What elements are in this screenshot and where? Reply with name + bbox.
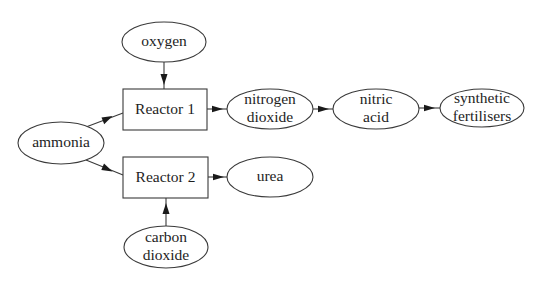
arrowhead-icon (163, 203, 170, 214)
node-label-ammonia: ammonia (32, 133, 90, 150)
node-oxygen: oxygen (122, 22, 206, 62)
node-label-urea: urea (257, 167, 284, 184)
edge-carbon-dioxide-to-reactor2 (163, 198, 170, 226)
node-label-oxygen: oxygen (141, 32, 187, 49)
node-label-carbon-dioxide-line1: carbon (145, 228, 187, 245)
node-label-synthetic-fertilisers-line2: fertilisers (453, 107, 512, 124)
edge-reactor1-to-nitrogen-dioxide (207, 106, 227, 112)
node-reactor-1: Reactor 1 (123, 89, 207, 130)
flowchart-diagram: oxygen Reactor 1 ammonia Reactor 2 carbo… (0, 0, 554, 282)
edges (86, 62, 440, 226)
edge-ammonia-to-reactor2 (86, 160, 123, 175)
edge-nitric-acid-to-synthetic-fertilisers (419, 105, 440, 111)
arrowhead-icon (213, 174, 224, 180)
node-label-nitric-acid-line1: nitric (360, 90, 393, 107)
node-carbon-dioxide: carbon dioxide (124, 226, 208, 268)
arrowhead-icon (102, 116, 113, 124)
node-label-synthetic-fertilisers-line1: synthetic (454, 89, 510, 106)
node-label-reactor-1: Reactor 1 (135, 100, 195, 117)
node-label-nitrogen-dioxide-line2: dioxide (247, 108, 294, 125)
arrowhead-icon (212, 106, 223, 112)
node-nitrogen-dioxide: nitrogen dioxide (227, 89, 313, 129)
node-label-reactor-2: Reactor 2 (136, 168, 196, 185)
arrowhead-icon (101, 163, 112, 171)
node-synthetic-fertilisers: synthetic fertilisers (440, 89, 524, 127)
node-ammonia: ammonia (18, 122, 104, 164)
arrowhead-icon (161, 74, 168, 85)
node-reactor-2: Reactor 2 (123, 157, 208, 198)
edge-ammonia-to-reactor1 (86, 113, 123, 127)
edge-nitrogen-dioxide-to-nitric-acid (313, 106, 333, 112)
node-nitric-acid: nitric acid (333, 89, 419, 129)
arrowhead-icon (318, 106, 329, 112)
node-urea: urea (227, 157, 313, 197)
edge-oxygen-to-reactor1 (161, 62, 168, 89)
node-label-nitrogen-dioxide-line1: nitrogen (244, 90, 296, 107)
node-label-nitric-acid-line2: acid (363, 108, 389, 125)
node-label-carbon-dioxide-line2: dioxide (143, 246, 190, 263)
edge-reactor2-to-urea (208, 174, 228, 180)
arrowhead-icon (424, 105, 435, 111)
